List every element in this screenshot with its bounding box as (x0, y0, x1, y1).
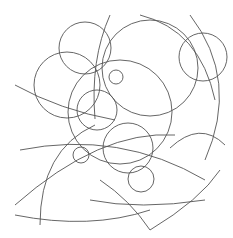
circle-stroke (103, 123, 153, 173)
circle-stroke (102, 20, 198, 116)
circle-stroke (77, 90, 117, 130)
abstract-circle-line-art (0, 0, 233, 238)
arc-stroke (40, 125, 95, 225)
arc-stroke (190, 15, 219, 160)
circle-stroke (179, 33, 227, 81)
circle-stroke (59, 22, 111, 74)
arc-stroke (140, 15, 215, 100)
arc-stroke (150, 170, 220, 230)
arc-stroke (15, 210, 150, 221)
arc-stroke (170, 133, 225, 148)
circle-stroke (128, 166, 154, 192)
circle-stroke (109, 70, 123, 84)
